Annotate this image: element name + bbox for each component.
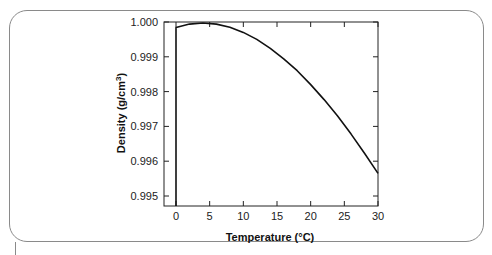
plot-area: 0510152025300.9950.9960.9970.9980.9991.0… [130,16,384,222]
y-axis-title: Density (g/cm3) [114,73,127,154]
x-tick-label: 5 [207,210,213,222]
y-tick-label: 1.000 [130,16,158,28]
x-axis-title: Temperature (°C) [226,231,315,243]
density-curve [176,23,378,206]
x-tick-label: 20 [305,210,317,222]
x-tick-label: 10 [237,210,249,222]
x-tick-label: 25 [338,210,350,222]
y-tick-label: 0.997 [130,120,158,132]
y-tick-label: 0.999 [130,51,158,63]
x-tick-label: 15 [271,210,283,222]
x-tick-label: 0 [173,210,179,222]
x-tick-label: 30 [372,210,384,222]
density-chart: 0510152025300.9950.9960.9970.9980.9991.0… [0,0,492,255]
y-tick-label: 0.998 [130,86,158,98]
y-tick-label: 0.996 [130,155,158,167]
y-tick-label: 0.995 [130,190,158,202]
